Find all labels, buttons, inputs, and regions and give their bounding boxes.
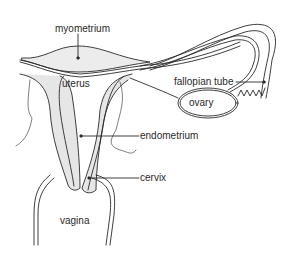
label-ovary: ovary — [189, 98, 213, 108]
label-myometrium: myometrium — [55, 24, 110, 34]
label-fallopian-tube: fallopian tube — [174, 77, 234, 87]
label-vagina: vagina — [60, 216, 89, 226]
fimbriae — [238, 88, 265, 96]
label-endometrium: endometrium — [140, 131, 198, 141]
vagina-wall-left — [34, 175, 50, 245]
uterus-wall-right — [82, 74, 132, 193]
label-uterus: uterus — [62, 79, 90, 89]
label-cervix: cervix — [140, 173, 166, 183]
